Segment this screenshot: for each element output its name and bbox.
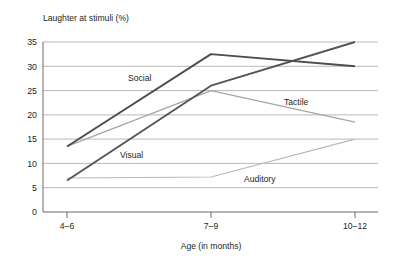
series-label-visual: Visual <box>120 150 143 160</box>
x-tick-label-0: 4–6 <box>60 221 75 231</box>
x-axis-title: Age (in months) <box>181 241 242 251</box>
series-label-social: Social <box>128 73 151 83</box>
series-label-auditory: Auditory <box>244 174 276 184</box>
y-tick-label-35: 35 <box>27 37 37 47</box>
y-tick-label-10: 10 <box>27 159 37 169</box>
y-tick-label-25: 25 <box>27 86 37 96</box>
series-label-tactile: Tactile <box>284 97 309 107</box>
y-axis-title: Laughter at stimuli (%) <box>43 13 129 23</box>
chart-canvas: Laughter at stimuli (%) 35 30 25 20 15 <box>0 0 406 269</box>
x-tick-label-1: 7–9 <box>204 221 219 231</box>
y-tick-label-30: 30 <box>27 62 37 72</box>
y-tick-label-20: 20 <box>27 110 37 120</box>
y-tick-label-5: 5 <box>32 183 37 193</box>
x-tick-label-2: 10–12 <box>343 221 367 231</box>
line-chart: Laughter at stimuli (%) 35 30 25 20 15 <box>0 0 406 269</box>
y-tick-label-15: 15 <box>27 134 37 144</box>
y-tick-label-0: 0 <box>32 207 37 217</box>
